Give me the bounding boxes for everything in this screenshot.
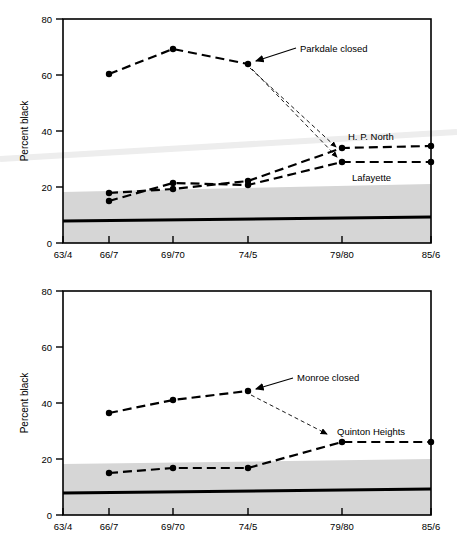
data-point (170, 186, 176, 192)
y-tick-label: 40 (41, 398, 52, 409)
data-point (245, 61, 251, 67)
y-axis-title: Percent black (19, 372, 30, 434)
x-tick-label: 66/7 (100, 249, 119, 260)
x-tick-label: 74/5 (239, 249, 258, 260)
data-point (245, 388, 251, 394)
y-tick-label: 20 (41, 454, 52, 465)
data-point (106, 410, 112, 416)
x-tick-label: 69/70 (161, 521, 185, 532)
x-tick-label: 63/4 (54, 249, 73, 260)
data-point (106, 71, 112, 77)
data-point (106, 190, 112, 196)
chart-panel-bottom: Monroe closed Quinton Heights 80 60 40 2… (0, 279, 457, 557)
data-point (245, 182, 251, 188)
x-tick-label: 66/7 (100, 521, 119, 532)
y-tick-label: 40 (41, 126, 52, 137)
annotation-hp-north: H. P. North (348, 131, 394, 142)
y-tick-label: 0 (47, 238, 52, 249)
x-tick-label: 79/80 (330, 249, 354, 260)
data-point (170, 46, 176, 52)
y-tick-label: 60 (41, 342, 52, 353)
data-point (170, 180, 176, 186)
annotation-quinton-heights: Quinton Heights (337, 426, 405, 437)
x-tick-label: 69/70 (161, 249, 185, 260)
y-axis-title: Percent black (19, 100, 30, 162)
x-tick-label: 85/6 (422, 521, 441, 532)
x-tick-label: 74/5 (239, 521, 258, 532)
x-tick-label: 63/4 (54, 521, 73, 532)
chart-panel-top: Parkdale closed H. P. North Lafayette 80… (0, 0, 457, 278)
data-point (339, 159, 345, 165)
annotation-lafayette: Lafayette (352, 172, 391, 183)
data-point (170, 465, 176, 471)
district-range-band (63, 184, 431, 243)
annotation-monroe-closed: Monroe closed (297, 372, 359, 383)
annotation-parkdale-closed: Parkdale closed (300, 43, 368, 54)
y-tick-label: 60 (41, 70, 52, 81)
y-tick-label: 80 (41, 14, 52, 25)
data-point (106, 470, 112, 476)
data-point (339, 145, 345, 151)
data-point (339, 439, 345, 445)
data-point (245, 465, 251, 471)
y-tick-label: 0 (47, 510, 52, 521)
y-tick-label: 20 (41, 182, 52, 193)
figure-two-panel-line-charts: Parkdale closed H. P. North Lafayette 80… (0, 0, 457, 557)
data-point (170, 397, 176, 403)
x-tick-label: 79/80 (330, 521, 354, 532)
y-tick-label: 80 (41, 286, 52, 297)
data-point (106, 198, 112, 204)
x-tick-label: 85/6 (422, 249, 441, 260)
